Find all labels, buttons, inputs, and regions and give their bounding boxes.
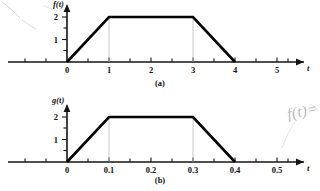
breakpoint-guides-a <box>109 17 193 62</box>
y-tick-label-b-2: 2 <box>44 113 58 122</box>
pencil-scribble-right <box>252 98 320 158</box>
breakpoint-guides-b <box>109 117 193 162</box>
y-axis-label-b: g(t) <box>52 96 64 105</box>
x-tick-label-a-2: 2 <box>149 66 153 75</box>
pencil-scribble-topleft <box>0 0 70 45</box>
x-tick-label-a-0: 0 <box>65 66 69 75</box>
x-tick-label-b-4: 0.4 <box>230 166 241 175</box>
figure-caption-b: (b) <box>0 176 320 185</box>
x-tick-label-b-2: 0.2 <box>146 166 157 175</box>
figure-page: f(t) t 1 2 0 1 2 3 4 5 (a) <box>0 0 320 191</box>
x-tick-label-a-4: 4 <box>233 66 237 75</box>
x-tick-label-a-3: 3 <box>191 66 195 75</box>
y-axis-arrow-b <box>64 104 71 112</box>
figure-caption-a: (a) <box>0 79 320 88</box>
x-tick-label-b-1: 0.1 <box>104 166 115 175</box>
x-tick-label-a-5: 5 <box>275 66 279 75</box>
x-axis-label-a: t <box>307 64 309 73</box>
x-axis-label-b: t <box>307 164 309 173</box>
x-axis-arrow-b <box>296 159 304 166</box>
waveform-curve-a <box>67 17 235 62</box>
x-axis-arrow-a <box>296 59 304 66</box>
waveform-curve-b <box>67 117 235 162</box>
y-tick-label-b-1: 1 <box>44 135 58 144</box>
x-tick-label-b-0: 0 <box>65 166 69 175</box>
x-tick-label-a-1: 1 <box>107 66 111 75</box>
x-tick-label-b-5: 0.5 <box>272 166 283 175</box>
x-tick-label-b-3: 0.3 <box>188 166 199 175</box>
